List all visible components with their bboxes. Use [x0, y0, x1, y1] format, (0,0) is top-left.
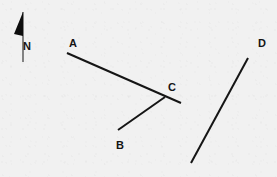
north-arrow-label: N [23, 40, 31, 52]
point-label-d: D [258, 37, 266, 49]
north-arrow-flag-icon [14, 12, 23, 36]
point-label-c: C [168, 81, 176, 93]
line-a-to-c [67, 53, 181, 103]
diagram-vector-layer: N A B C D [0, 0, 277, 177]
point-label-a: A [69, 37, 77, 49]
survey-diagram-canvas: N A B C D [0, 0, 277, 177]
point-label-b: B [116, 139, 124, 151]
line-segments-group [67, 53, 248, 163]
line-b-to-c [118, 97, 165, 130]
point-labels-group: A B C D [69, 37, 266, 151]
line-d [191, 58, 248, 163]
north-arrow-group: N [14, 12, 31, 62]
